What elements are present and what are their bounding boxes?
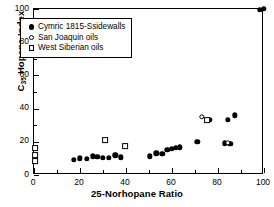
legend-item-cymric: Cymric 1815-Ssidewalls bbox=[25, 22, 125, 33]
x-axis-minor-tick bbox=[241, 170, 242, 173]
x-axis-tick bbox=[218, 168, 219, 173]
data-point-open-square bbox=[32, 146, 38, 152]
x-axis-tick-label: 80 bbox=[202, 178, 232, 187]
y-axis-tick-label: 0 bbox=[3, 170, 29, 179]
x-axis-tick bbox=[264, 168, 265, 173]
data-point-open-square bbox=[102, 137, 108, 143]
x-axis-tick-label: 20 bbox=[64, 178, 94, 187]
data-point-filled-circle bbox=[147, 154, 152, 159]
y-axis-minor-tick bbox=[34, 125, 37, 126]
x-axis-minor-tick bbox=[195, 170, 196, 173]
data-point-open-square bbox=[122, 144, 128, 150]
x-axis-minor-tick bbox=[57, 170, 58, 173]
x-axis-tick bbox=[126, 168, 127, 173]
y-axis-minor-tick bbox=[34, 59, 37, 60]
data-point-filled-circle bbox=[195, 139, 200, 144]
chart-legend: Cymric 1815-Ssidewalls San Joaquin oils … bbox=[20, 18, 132, 58]
data-point-filled-circle bbox=[177, 144, 182, 149]
x-axis-minor-tick bbox=[103, 170, 104, 173]
x-axis-tick-label: 60 bbox=[156, 178, 186, 187]
data-point-filled-circle bbox=[106, 155, 111, 160]
y-axis-tick-label: 60 bbox=[3, 70, 29, 79]
data-point-open-square bbox=[204, 117, 210, 123]
data-point-filled-circle bbox=[154, 151, 159, 156]
x-axis-title: 25-Norhopane Ratio bbox=[0, 188, 274, 199]
data-point-filled-circle bbox=[71, 157, 76, 162]
x-axis-minor-tick bbox=[149, 170, 150, 173]
legend-item-san-joaquin: San Joaquin oils bbox=[25, 33, 125, 44]
y-axis-title-prefix: C bbox=[15, 84, 26, 91]
filled-circle-icon bbox=[25, 24, 38, 30]
y-axis-tick bbox=[34, 109, 39, 110]
y-axis-tick bbox=[34, 9, 39, 10]
y-axis-minor-tick bbox=[34, 158, 37, 159]
data-point-open-square bbox=[32, 152, 38, 158]
y-axis-tick-label: 100 bbox=[3, 4, 29, 13]
y-axis-tick bbox=[34, 175, 39, 176]
x-axis-tick-label: 100 bbox=[248, 178, 274, 187]
legend-item-west-siberian: West Siberian oils bbox=[25, 43, 125, 54]
data-point-filled-circle bbox=[118, 155, 123, 160]
data-point-filled-circle bbox=[261, 6, 266, 11]
legend-item-label: West Siberian oils bbox=[38, 44, 103, 52]
x-axis-tick-label: 0 bbox=[18, 178, 48, 187]
x-axis-tick bbox=[80, 168, 81, 173]
data-point-filled-circle bbox=[225, 117, 230, 122]
data-point-filled-circle bbox=[100, 155, 105, 160]
y-axis-minor-tick bbox=[34, 92, 37, 93]
data-point-filled-circle bbox=[84, 156, 89, 161]
legend-item-label: San Joaquin oils bbox=[38, 34, 98, 42]
data-point-filled-circle bbox=[77, 156, 82, 161]
y-axis-tick bbox=[34, 142, 39, 143]
x-axis-tick-label: 40 bbox=[110, 178, 140, 187]
y-axis-tick-label: 40 bbox=[3, 103, 29, 112]
y-axis-tick-label: 80 bbox=[3, 37, 29, 46]
y-axis-tick bbox=[34, 75, 39, 76]
open-square-icon bbox=[25, 45, 38, 51]
legend-item-label: Cymric 1815-Ssidewalls bbox=[38, 23, 125, 31]
scatter-plot-figure: C35 Hopane Index 25-Norhopane Ratio Cymr… bbox=[0, 0, 274, 207]
y-axis-tick-label: 20 bbox=[3, 136, 29, 145]
data-point-filled-circle bbox=[232, 113, 237, 118]
x-axis-tick bbox=[172, 168, 173, 173]
x-axis-tick bbox=[34, 168, 35, 173]
data-point-filled-circle bbox=[160, 151, 165, 156]
